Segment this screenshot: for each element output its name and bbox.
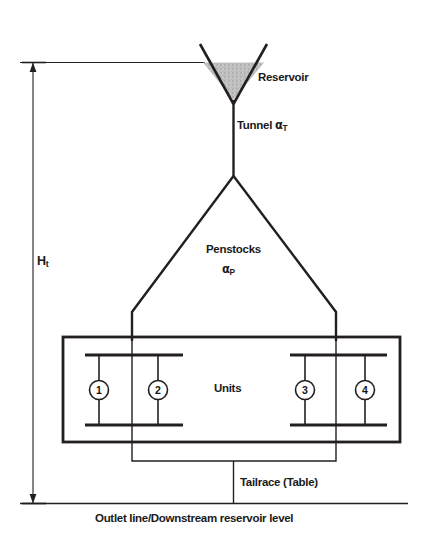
penstocks-label: Penstocks: [206, 244, 261, 256]
tailrace-label: Tailrace (Table): [240, 477, 318, 489]
tunnel-alpha-symbol: α: [275, 118, 283, 132]
diagram-canvas: Ht Reservoir Tunnel αT Penstocks αP Unit…: [0, 0, 430, 555]
reservoir-label: Reservoir: [258, 72, 308, 84]
units-label: Units: [214, 383, 241, 395]
unit-number-4: 4: [357, 385, 373, 396]
tunnel-alpha-subscript: T: [283, 124, 288, 133]
gross-head-symbol: H: [37, 254, 46, 268]
outlet-level-label: Outlet line/Downstream reservoir level: [95, 513, 293, 525]
penstocks-alpha-subscript: P: [230, 268, 235, 277]
penstock-left-branch: [132, 176, 234, 341]
head-arrow-bottom: [30, 494, 37, 504]
penstocks-coefficient-label: αP: [222, 264, 235, 277]
tunnel-label: Tunnel αT: [237, 120, 287, 133]
gross-head-subscript: t: [46, 259, 49, 269]
penstock-right-branch: [234, 176, 337, 341]
unit-number-1: 1: [91, 385, 107, 396]
hydropower-schematic-svg: [0, 0, 430, 555]
tunnel-label-text: Tunnel: [237, 119, 272, 131]
unit-number-2: 2: [150, 385, 166, 396]
unit-number-3: 3: [297, 385, 313, 396]
gross-head-label: Ht: [37, 255, 48, 269]
penstocks-alpha-symbol: α: [222, 262, 230, 276]
head-arrow-top: [30, 63, 37, 73]
